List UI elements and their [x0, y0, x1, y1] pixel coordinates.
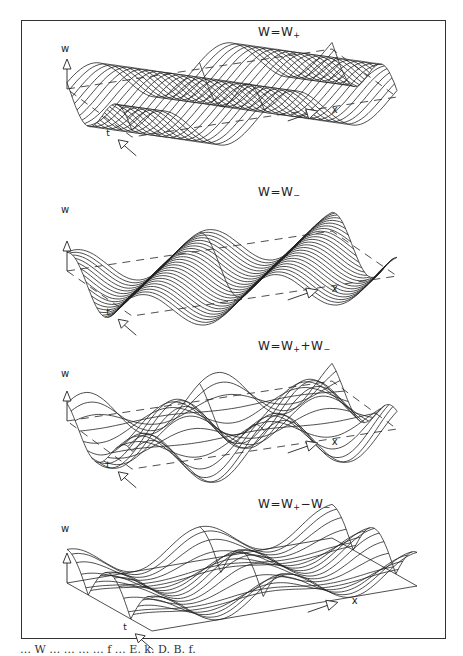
surface-edge	[332, 43, 397, 91]
surface-edge	[332, 504, 417, 574]
t-axis-label: t	[106, 460, 110, 470]
panel-w-diff: tx w W=W+−W−	[22, 493, 447, 640]
w-axis-arrow-icon	[63, 391, 71, 421]
t-axis-arrow-icon	[118, 140, 136, 156]
surface-line	[83, 226, 348, 296]
equation-label: W=W+	[258, 25, 301, 40]
surface-edge	[67, 83, 132, 131]
figure-frame: tx w W=W+ tx w W=W− tx w W=W++W− tx w W=…	[21, 20, 446, 639]
figure-caption: … W … … … … f … E. k. D. B. f.	[20, 643, 460, 656]
surface-line	[81, 223, 346, 294]
w-axis-label: w	[61, 204, 69, 215]
surface-plot-w-minus: tx	[22, 181, 447, 331]
surface-edge	[67, 252, 132, 317]
t-axis-arrow-icon	[118, 472, 136, 488]
t-axis-label: t	[123, 622, 127, 632]
surface-plot-w-diff: tx	[22, 493, 447, 640]
t-axis-label: t	[106, 128, 110, 138]
equation-label: W=W−	[258, 185, 301, 200]
x-axis-label: x	[352, 595, 358, 606]
w-axis-label: w	[61, 523, 69, 534]
x-axis-label: x	[332, 436, 338, 447]
x-axis-arrow-icon	[288, 288, 318, 300]
panel-w-sum: tx w W=W++W−	[22, 336, 447, 496]
surface-edge	[200, 63, 265, 111]
equation-label: W=W++W−	[258, 339, 331, 354]
equation-label: W=W+−W−	[258, 497, 331, 512]
surface-line	[100, 386, 365, 468]
w-axis-label: w	[61, 368, 69, 379]
surface-edge	[67, 403, 132, 462]
surface-line	[119, 261, 384, 312]
t-axis-label: t	[106, 307, 110, 317]
w-axis-arrow-icon	[63, 59, 71, 89]
x-axis-label: x	[332, 283, 338, 294]
surface-line	[104, 396, 369, 465]
panel-w-minus: tx w W=W−	[22, 181, 447, 331]
w-axis-arrow-icon	[63, 241, 71, 271]
surface-plot-w-plus: tx	[22, 21, 447, 181]
w-axis-arrow-icon	[63, 553, 71, 583]
w-axis-label: w	[61, 43, 69, 54]
t-axis-arrow-icon	[118, 319, 136, 335]
panel-w-plus: tx w W=W+	[22, 21, 447, 181]
x-axis-arrow-icon	[288, 441, 318, 453]
x-axis-label: x	[332, 104, 338, 115]
surface-plot-w-sum: tx	[22, 336, 447, 496]
